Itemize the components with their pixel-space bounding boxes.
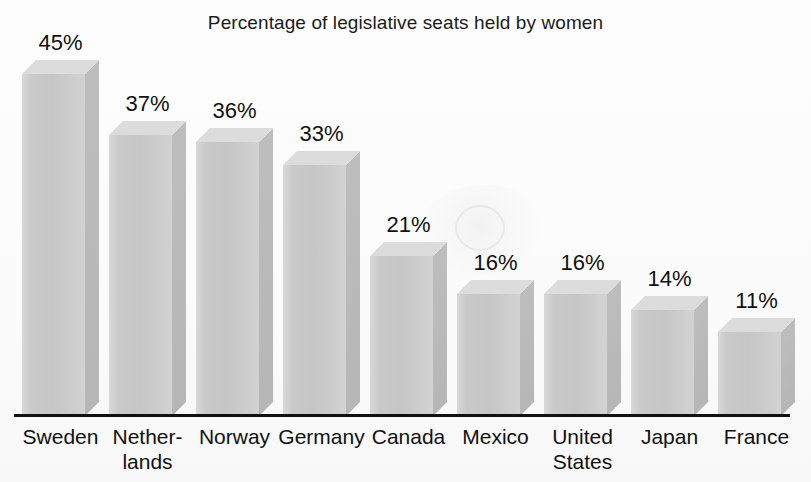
bar-side-face [433,242,447,416]
category-label: Mexico [447,424,544,449]
bar-front-face [22,74,85,416]
bar-value-label: 45% [14,30,107,56]
bar-japan [631,310,708,416]
bar-value-label: 37% [101,91,194,117]
category-label: Sweden [12,424,109,449]
bar-mexico [457,294,534,416]
category-label: Japan [621,424,718,449]
bar-front-face [283,165,346,416]
bar-front-face [631,310,694,416]
bar-side-face [520,280,534,416]
bar-germany [283,165,360,416]
bar-unitedstates [544,294,621,416]
bar-side-face [781,318,795,416]
category-label: Norway [186,424,283,449]
bar-front-face [109,135,172,416]
bar-front-face [718,332,781,416]
bar-netherlands [109,135,186,416]
bar-value-label: 11% [710,288,803,314]
bar-value-label: 16% [449,250,542,276]
category-label: Nether- lands [99,424,196,474]
category-label: Canada [360,424,457,449]
category-label: Germany [273,424,370,449]
bar-side-face [607,280,621,416]
category-label: France [708,424,805,449]
bar-front-face [370,256,433,416]
bar-norway [196,142,273,416]
bar-side-face [172,121,186,416]
bar-value-label: 36% [188,98,281,124]
bar-side-face [259,128,273,416]
bar-sweden [22,74,99,416]
bar-side-face [85,60,99,416]
bar-value-label: 16% [536,250,629,276]
plot-area: 45%Sweden37%Nether- lands36%Norway33%Ger… [0,0,811,482]
bar-front-face [457,294,520,416]
bar-canada [370,256,447,416]
bar-front-face [196,142,259,416]
x-axis-line [14,414,790,417]
category-label: United States [534,424,631,474]
bar-value-label: 14% [623,266,716,292]
bar-front-face [544,294,607,416]
bar-value-label: 33% [275,121,368,147]
bar-france [718,332,795,416]
bar-side-face [694,296,708,416]
bar-chart-figure: Percentage of legislative seats held by … [0,0,811,482]
bar-side-face [346,151,360,416]
bar-value-label: 21% [362,212,455,238]
